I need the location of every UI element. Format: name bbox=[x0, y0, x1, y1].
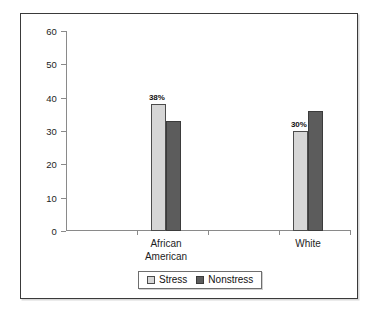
y-tick-label-10: 10 bbox=[33, 194, 57, 203]
bar-stress-white[interactable] bbox=[293, 131, 308, 231]
bar-nonstress-african-american[interactable] bbox=[166, 121, 181, 231]
y-tick-30 bbox=[61, 131, 66, 132]
x-tick-1 bbox=[137, 231, 138, 235]
y-tick-label-60: 60 bbox=[33, 27, 57, 36]
y-tick-0 bbox=[61, 231, 66, 232]
y-tick-label-30: 30 bbox=[33, 127, 57, 136]
y-tick-60 bbox=[61, 31, 66, 32]
x-tick-3 bbox=[279, 231, 280, 235]
bar-stress-african-american[interactable] bbox=[151, 104, 166, 231]
y-tick-label-20: 20 bbox=[33, 160, 57, 169]
bar-label-stress-white: 30% bbox=[291, 120, 307, 129]
y-tick-20 bbox=[61, 164, 66, 165]
y-tick-10 bbox=[61, 198, 66, 199]
category-label-african-american: African American bbox=[126, 238, 206, 263]
legend-label-nonstress: Nonstress bbox=[208, 275, 253, 285]
x-tick-2 bbox=[208, 231, 209, 235]
x-tick-4 bbox=[350, 231, 351, 235]
legend-entry-nonstress[interactable]: Nonstress bbox=[196, 275, 253, 285]
bar-nonstress-white[interactable] bbox=[308, 111, 323, 231]
y-tick-40 bbox=[61, 98, 66, 99]
y-tick-label-40: 40 bbox=[33, 94, 57, 103]
chart-legend: Stress Nonstress bbox=[138, 271, 262, 289]
legend-swatch-nonstress-icon bbox=[196, 276, 204, 284]
chart-figure-frame: 60 50 40 30 20 10 0 38% 30% African Amer… bbox=[20, 13, 358, 299]
y-axis-line bbox=[66, 31, 67, 231]
category-label-white: White bbox=[268, 238, 348, 251]
legend-swatch-stress-icon bbox=[147, 276, 155, 284]
plot-area: 60 50 40 30 20 10 0 38% 30% African Amer… bbox=[21, 14, 359, 300]
y-tick-50 bbox=[61, 64, 66, 65]
bar-label-stress-african-american: 38% bbox=[149, 93, 165, 102]
y-tick-label-0: 0 bbox=[33, 227, 57, 236]
legend-entry-stress[interactable]: Stress bbox=[147, 275, 187, 285]
y-tick-label-50: 50 bbox=[33, 60, 57, 69]
legend-label-stress: Stress bbox=[159, 275, 187, 285]
